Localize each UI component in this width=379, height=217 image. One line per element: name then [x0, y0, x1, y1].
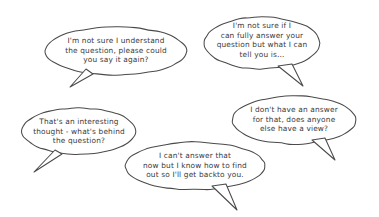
bubble-fully-answer-tail [278, 64, 303, 86]
bubble-interesting-thought [22, 108, 136, 172]
speech-bubble-canvas: I'm not sure I understand the question, … [0, 0, 379, 217]
bubble-no-answer-view [232, 96, 356, 160]
bubble-get-back-to-you [125, 142, 265, 210]
bubble-understand-question [45, 27, 187, 87]
bubble-fully-answer [204, 17, 320, 86]
bubble-interesting-thought-tail [34, 150, 62, 172]
bubble-no-answer-view-oval [232, 96, 356, 145]
bubble-get-back-to-you-oval [125, 142, 265, 190]
bubble-outlines-layer [0, 0, 379, 217]
bubble-fully-answer-oval [204, 17, 320, 69]
bubble-understand-question-oval [45, 27, 187, 76]
bubble-no-answer-view-tail [312, 138, 335, 160]
bubble-interesting-thought-oval [22, 108, 136, 155]
bubble-get-back-to-you-tail [212, 184, 237, 210]
